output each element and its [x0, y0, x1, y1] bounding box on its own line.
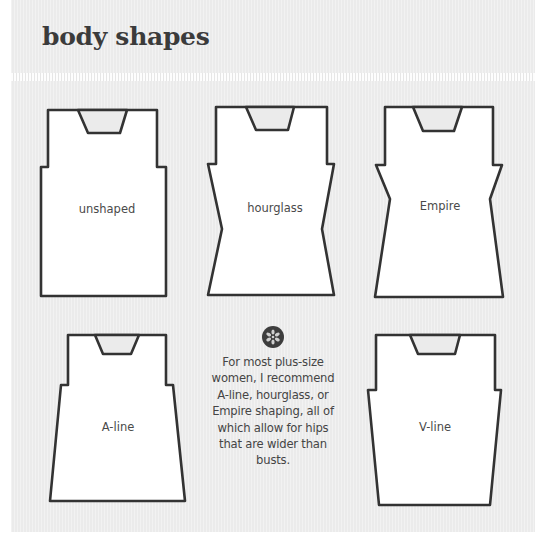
label-hourglass: hourglass	[247, 201, 303, 215]
note-line: A-line, hourglass, or	[203, 387, 343, 403]
neckline	[410, 335, 460, 354]
recommendation-note: For most plus-size women, I recommend A-…	[203, 354, 343, 469]
neckline	[413, 107, 462, 131]
garment-outline	[50, 335, 185, 501]
note-line: that are wider than	[203, 436, 343, 452]
note-line: which allow for hips	[203, 420, 343, 436]
neckline	[95, 335, 139, 354]
note-line: For most plus-size	[203, 354, 343, 370]
label-a-line: A-line	[102, 420, 135, 434]
label-unshaped: unshaped	[79, 202, 136, 216]
label-empire: Empire	[420, 199, 461, 213]
note-line: busts.	[203, 452, 343, 468]
shape-a-line	[50, 335, 185, 501]
note-line: Empire shaping, all of	[203, 403, 343, 419]
label-v-line: V-line	[419, 420, 451, 434]
note-line: women, I recommend	[203, 370, 343, 386]
neckline	[78, 110, 127, 133]
neckline	[246, 107, 294, 130]
asterisk-flower-icon	[262, 326, 284, 348]
